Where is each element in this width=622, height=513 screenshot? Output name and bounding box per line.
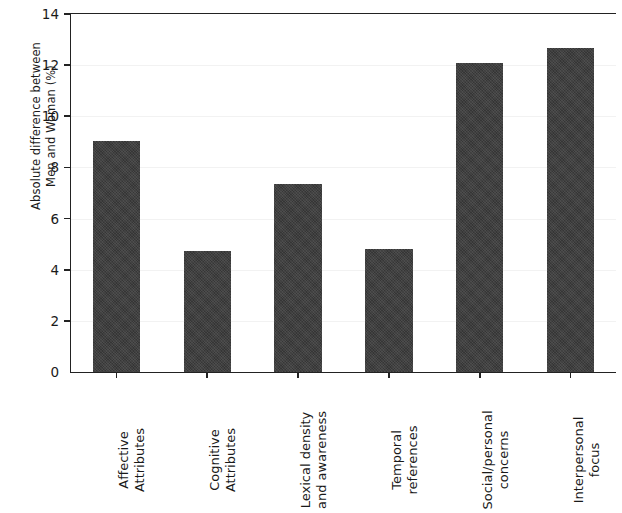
y-axis-tick-label: 6 (50, 211, 59, 227)
y-axis-tick (64, 115, 71, 117)
y-axis-tick (64, 218, 71, 220)
gridline (71, 116, 616, 117)
y-axis-tick-label: 12 (42, 57, 59, 73)
x-axis-tick (297, 372, 299, 378)
x-axis-tick-label-line: focus (586, 443, 602, 478)
y-axis-tick-label: 0 (50, 364, 59, 380)
x-axis-tick-label: CognitiveAttributes (207, 385, 237, 513)
x-axis-tick-label-line: and awareness (314, 411, 330, 509)
x-axis-tick-label: Social/personalconcerns (480, 385, 510, 513)
y-axis-tick-label: 4 (50, 262, 59, 278)
gridline (71, 321, 616, 322)
x-axis-tick (570, 372, 572, 378)
y-axis-tick-label: 10 (42, 108, 59, 124)
bar (547, 48, 594, 372)
x-axis-tick-label-line: Interpersonal (571, 417, 587, 504)
bar (274, 184, 321, 372)
x-axis-tick-label: Lexical densityand awareness (298, 385, 328, 513)
x-axis-tick-label-line: Attributes (223, 428, 239, 492)
x-axis-tick-label: AffectiveAttributes (116, 385, 146, 513)
y-axis-tick (64, 269, 71, 271)
x-axis-tick-label-line: Attributes (132, 428, 148, 492)
y-axis-tick-label: 8 (50, 159, 59, 175)
y-axis-tick (64, 167, 71, 169)
y-axis-tick-label: 2 (50, 313, 59, 329)
x-axis-tick (388, 372, 390, 378)
plot-area: 02468101214 AffectiveAttributesCognitive… (70, 13, 616, 373)
x-axis-tick-label-line: Affective (116, 431, 132, 488)
gridline (71, 219, 616, 220)
x-axis-tick (206, 372, 208, 378)
y-axis-tick-label: 14 (42, 6, 59, 22)
x-axis-tick-label-line: concerns (496, 431, 512, 490)
gridline (71, 270, 616, 271)
x-axis-tick (116, 372, 118, 378)
x-axis-tick-label-line: Cognitive (207, 429, 223, 491)
bar (365, 249, 412, 372)
y-axis-tick (64, 64, 71, 66)
bar (184, 251, 231, 372)
bar (456, 63, 503, 372)
x-axis-tick-label: Interpersonalfocus (571, 385, 601, 513)
x-axis-tick-label-line: references (405, 426, 421, 495)
x-axis-tick-label: Temporalreferences (389, 385, 419, 513)
gridline (71, 65, 616, 66)
bar (93, 141, 140, 372)
y-axis-tick (64, 13, 71, 15)
x-axis-tick (479, 372, 481, 378)
x-axis-tick-label-line: Social/personal (480, 410, 496, 509)
x-axis-tick-label-line: Lexical density (298, 412, 314, 509)
gridline (71, 167, 616, 168)
x-axis-tick-label-line: Temporal (389, 430, 405, 490)
y-axis-tick (64, 320, 71, 322)
